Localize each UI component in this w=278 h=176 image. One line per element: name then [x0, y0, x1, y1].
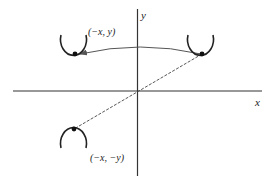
- point-label-lower-left: (−x, −y): [90, 152, 125, 164]
- point-lower-left: (−x, −y): [61, 127, 125, 164]
- point-upper-right: [188, 35, 214, 56]
- reflection-diagram: y x (−x, y) (−x, −y): [0, 0, 278, 176]
- point-dot: [73, 52, 78, 57]
- reflection-curved-arrow: [80, 47, 201, 54]
- point-dot: [72, 127, 77, 132]
- point-label-upper-left: (−x, y): [88, 26, 116, 38]
- point-dot: [200, 52, 205, 57]
- y-axis-label: y: [140, 9, 146, 21]
- x-axis-label: x: [254, 96, 260, 108]
